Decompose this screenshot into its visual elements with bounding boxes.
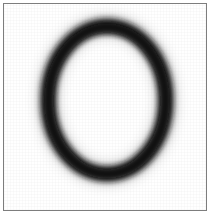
glyph-core-stroke: [49, 28, 165, 174]
glyph-container: [4, 4, 206, 210]
sample-canvas: [0, 0, 210, 214]
character-o-glyph: [4, 4, 206, 210]
drawing-plate: [4, 4, 206, 210]
sample-frame: [3, 3, 207, 211]
